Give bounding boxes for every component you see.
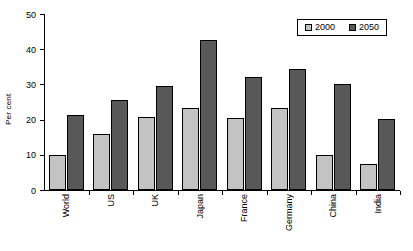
bar [245,77,262,190]
bar-group [133,14,178,190]
chart-legend: 2000 2050 [297,19,387,36]
bar [271,108,288,190]
y-tick-0: 0 [40,190,44,191]
x-tick [222,191,223,195]
bar [138,117,155,190]
bar [360,164,377,190]
bar [316,155,333,190]
y-tick-label: 40 [26,45,36,55]
bar [93,134,110,190]
x-tick [356,191,357,195]
y-tick-label: 50 [26,10,36,20]
bar [111,100,128,190]
x-label-india: India [373,194,383,214]
x-label-china: China [328,194,338,218]
bar-group [222,14,267,190]
bar [289,69,306,190]
bar-group [178,14,223,190]
bar-group [89,14,134,190]
x-label-us: US [106,194,116,207]
bar-group [44,14,89,190]
x-tick [133,191,134,195]
x-label-uk: UK [150,194,160,207]
x-label-germany: Germany [284,194,294,231]
y-tick-label: 10 [26,150,36,160]
legend-swatch-icon-2050 [349,24,356,31]
legend-entry-2000: 2000 [305,23,335,32]
y-axis-label: Per cent [2,74,16,144]
bar [200,40,217,190]
bar-group [267,14,312,190]
plot-area: 01020304050 [44,14,400,190]
x-tick [267,191,268,195]
legend-label-2050: 2050 [359,23,379,32]
bar [156,86,173,190]
legend-label-2000: 2000 [315,23,335,32]
bar [378,119,395,190]
x-tick [311,191,312,195]
bar-chart: Per cent 01020304050 WorldUSUKJapanFranc… [0,0,413,251]
x-tick [178,191,179,195]
bar-group [311,14,356,190]
bar-group [356,14,401,190]
x-tick [400,191,401,195]
bar [227,118,244,190]
x-label-france: France [239,194,249,222]
bar [182,108,199,190]
y-tick-label: 0 [31,186,36,196]
bar [67,115,84,190]
legend-swatch-icon-2000 [305,24,312,31]
bar [334,84,351,190]
bar [49,155,66,190]
y-tick-label: 30 [26,80,36,90]
x-label-japan: Japan [195,194,205,219]
y-tick-label: 20 [26,115,36,125]
legend-entry-2050: 2050 [349,23,379,32]
x-tick [89,191,90,195]
x-label-world: World [61,194,71,217]
